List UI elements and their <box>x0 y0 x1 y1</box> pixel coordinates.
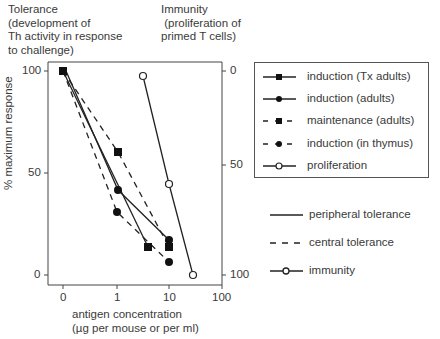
x-tick-100: 100 <box>212 291 231 305</box>
y-right-tick-50: 50 <box>230 158 243 172</box>
series-maintenance-adults <box>63 71 169 247</box>
series-induction-tx-adults <box>63 71 148 247</box>
marker-open-circle <box>140 73 147 80</box>
marker-circle <box>113 208 121 216</box>
marker-square <box>59 67 67 75</box>
marker-circle <box>165 258 173 266</box>
y-left-tick-100: 100 <box>22 64 41 78</box>
x-tick-1: 1 <box>114 291 120 305</box>
bottom-ticks <box>63 285 222 289</box>
y-right-tick-100: 100 <box>230 268 249 282</box>
y-right-tick-0: 0 <box>230 64 236 78</box>
legend-item-induction-tx-adults: induction (Tx adults) <box>307 70 411 82</box>
marker-circle <box>165 236 173 244</box>
marker-square <box>165 243 173 251</box>
right-ticks <box>222 71 226 275</box>
key-lines <box>270 215 303 274</box>
left-ticks <box>44 71 48 275</box>
marker-square <box>114 148 122 156</box>
marker-open-circle <box>190 272 197 279</box>
x-tick-0: 0 <box>60 291 66 305</box>
legend-item-induction-adults: induction (adults) <box>307 92 395 104</box>
y-left-tick-0: 0 <box>34 268 40 282</box>
key-central-tolerance: central tolerance <box>309 236 394 248</box>
marker-square <box>144 243 152 251</box>
legend-item-induction-thymus: induction (in thymus) <box>307 137 413 149</box>
y-left-tick-50: 50 <box>28 166 41 180</box>
legend-item-maintenance-adults: maintenance (adults) <box>307 114 414 126</box>
marker-open-circle <box>166 181 173 188</box>
key-immunity: immunity <box>309 264 355 276</box>
x-tick-10: 10 <box>163 291 176 305</box>
marker-circle <box>114 186 122 194</box>
key-peripheral-tolerance: peripheral tolerance <box>309 208 411 220</box>
legend-item-proliferation: proliferation <box>307 159 367 171</box>
